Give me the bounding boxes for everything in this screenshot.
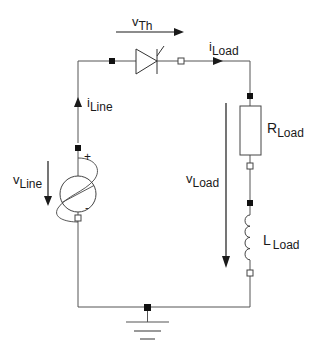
i-line-arrow xyxy=(74,97,82,107)
v-load-label: vLoad xyxy=(186,171,219,190)
ground-icon xyxy=(126,304,169,339)
plus-sign: + xyxy=(84,150,91,164)
node-filled-ground xyxy=(144,304,151,311)
node-open-source-bottom xyxy=(75,215,81,221)
node-open-inductor-bottom xyxy=(247,270,253,276)
v-line-arrow xyxy=(44,161,52,206)
v-line-label: vLine xyxy=(13,172,43,191)
circuit-diagram: vTh iLoad iLine + - vLine RLoad vLoad xyxy=(0,0,316,352)
node-filled-inductor-top xyxy=(247,200,253,206)
l-load-label: LLoad xyxy=(263,232,300,252)
minus-sign: - xyxy=(85,201,89,213)
node-filled-resistor-top xyxy=(247,93,253,99)
wire-bottom-left xyxy=(78,225,250,307)
node-filled-source-top xyxy=(75,145,81,151)
resistor-icon xyxy=(240,106,261,155)
v-th-label: vTh xyxy=(132,14,153,33)
node-filled-top-left xyxy=(109,58,115,64)
v-load-arrow xyxy=(222,103,230,268)
node-open-resistor-bottom xyxy=(247,163,253,169)
wires xyxy=(78,61,250,307)
inductor-icon xyxy=(245,215,250,260)
r-load-label: RLoad xyxy=(267,120,304,140)
i-load-label: iLoad xyxy=(209,39,239,58)
i-line-label: iLine xyxy=(87,95,113,114)
node-open-top xyxy=(178,58,184,64)
i-load-arrow xyxy=(213,57,223,65)
thyristor-icon xyxy=(136,46,164,74)
ac-source-icon xyxy=(57,145,98,222)
